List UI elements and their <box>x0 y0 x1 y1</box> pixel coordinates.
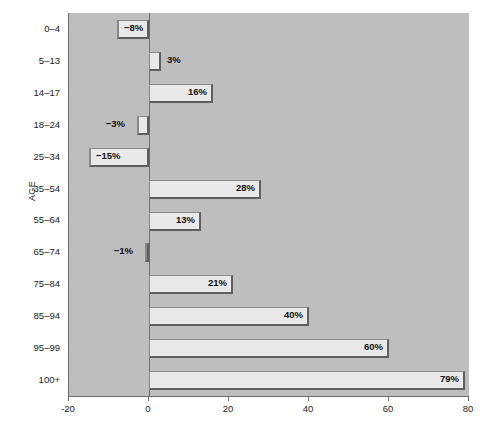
chart-container: AGE −8%3%16%−3%−15%28%13%−1%21%40%60%79%… <box>0 0 489 427</box>
x-axis-tick-label: 20 <box>208 403 248 415</box>
bar-value-label: 13% <box>149 214 201 226</box>
bar[interactable] <box>137 116 149 135</box>
y-axis-tick-label: 5–13 <box>2 55 60 67</box>
x-axis-tick-label: 60 <box>368 403 408 415</box>
bar-value-label: −8% <box>117 22 149 34</box>
x-axis-tick <box>388 396 389 401</box>
bar-value-label: −3% <box>71 118 131 130</box>
bar-row: −15% <box>69 141 469 173</box>
bar-value-label: 16% <box>149 86 213 98</box>
y-axis-tick-label: 0–4 <box>2 23 60 35</box>
bar-value-label: 28% <box>149 182 261 194</box>
y-axis-tick-label: 25–34 <box>2 151 60 163</box>
y-axis-tick-label: 95–99 <box>2 342 60 354</box>
y-axis-tick-label: 14–17 <box>2 87 60 99</box>
y-axis-tick-label: 18–24 <box>2 119 60 131</box>
x-axis-tick <box>468 396 469 401</box>
bar-row: 3% <box>69 45 469 77</box>
plot-area: −8%3%16%−3%−15%28%13%−1%21%40%60%79% <box>68 13 469 397</box>
bar-value-label: 60% <box>149 341 389 353</box>
y-axis-tick-label: 55–64 <box>2 214 60 226</box>
bar[interactable] <box>145 243 149 262</box>
bar-row: −1% <box>69 236 469 268</box>
bar-row: 13% <box>69 205 469 237</box>
bar-row: 40% <box>69 300 469 332</box>
x-axis-tick-label: 0 <box>128 403 168 415</box>
x-axis-tick-label: 40 <box>288 403 328 415</box>
bar-row: −3% <box>69 109 469 141</box>
bar-value-label: 79% <box>149 373 465 385</box>
x-axis-tick-label: -20 <box>48 403 88 415</box>
x-axis-tick <box>228 396 229 401</box>
bar-value-label: −1% <box>79 245 139 257</box>
y-axis-tick-label: 65–74 <box>2 246 60 258</box>
x-axis-tick-label: 80 <box>448 403 488 415</box>
bar-row: 21% <box>69 268 469 300</box>
x-axis-tick <box>68 396 69 401</box>
bar-row: 28% <box>69 173 469 205</box>
bar-value-label: 21% <box>149 277 233 289</box>
x-axis-tick <box>308 396 309 401</box>
y-axis-tick-label: 35–54 <box>2 183 60 195</box>
bar-row: 60% <box>69 332 469 364</box>
y-axis-tick-label: 100+ <box>2 374 60 386</box>
bar-value-label: 40% <box>149 309 309 321</box>
bar-row: 79% <box>69 364 469 396</box>
x-axis-tick <box>148 396 149 401</box>
bar[interactable] <box>149 52 161 71</box>
bar-row: −8% <box>69 13 469 45</box>
bar-row: 16% <box>69 77 469 109</box>
y-axis-tick-label: 75–84 <box>2 278 60 290</box>
bar-value-label: −15% <box>89 150 149 162</box>
bar-value-label: 3% <box>167 54 227 66</box>
y-axis-tick-label: 85–94 <box>2 310 60 322</box>
